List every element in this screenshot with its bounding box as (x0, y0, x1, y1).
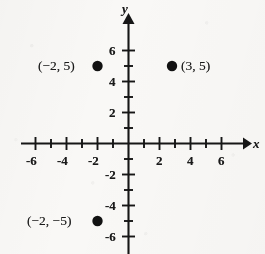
point-label-upper-right: (3, 5) (181, 59, 210, 73)
x-tick-label-neg6: -6 (26, 154, 37, 167)
arrow-right-icon (243, 138, 252, 150)
point-label-lower-left: (−2, −5) (27, 214, 71, 228)
point-label-upper-left: (−2, 5) (38, 59, 75, 73)
y-tick-label-neg6: -6 (105, 230, 116, 243)
x-tick-label-neg2: -2 (88, 154, 99, 167)
x-tick-label-2: 2 (156, 154, 163, 167)
data-point-marker (167, 61, 177, 71)
y-tick-label-neg2: -2 (105, 168, 116, 181)
x-axis-label: x (253, 137, 260, 150)
x-tick-label-6: 6 (218, 154, 225, 167)
y-tick-label-2: 2 (109, 106, 116, 119)
y-axis-label: y (122, 2, 128, 15)
data-point-marker (92, 216, 102, 226)
data-point-marker (92, 61, 102, 71)
x-tick-label-4: 4 (187, 154, 194, 167)
coordinate-plane-figure: x y -6 -4 -2 2 4 6 6 4 2 -2 -4 -6 (−2, 5… (0, 0, 265, 254)
y-tick-label-neg4: -4 (105, 199, 116, 212)
y-tick-label-6: 6 (109, 44, 116, 57)
y-tick-label-4: 4 (109, 75, 116, 88)
x-tick-label-neg4: -4 (57, 154, 68, 167)
